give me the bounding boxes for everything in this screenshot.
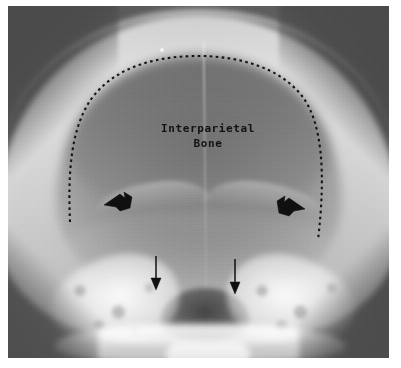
annotation-svg (8, 6, 389, 358)
right-thick-arrowhead (277, 196, 305, 216)
left-thick-arrowhead (104, 192, 132, 211)
radiograph-figure: Interparietal Bone (0, 0, 401, 368)
right-thin-arrow (230, 259, 240, 294)
interparietal-bone-label-line1: Interparietal (118, 123, 298, 136)
radiograph-plate: Interparietal Bone (8, 6, 389, 358)
interparietal-bone-label-line2: Bone (118, 138, 298, 151)
annotation-overlay: Interparietal Bone (8, 6, 389, 358)
left-thin-arrow (151, 256, 161, 290)
